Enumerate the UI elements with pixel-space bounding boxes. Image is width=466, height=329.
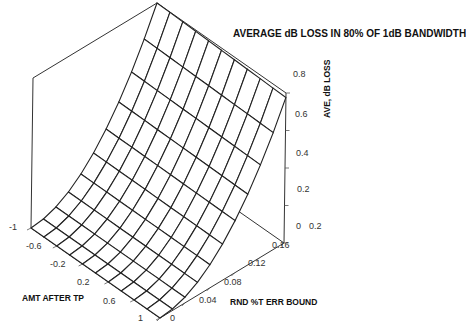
- z-axis-title: AVE, dB LOSS: [322, 60, 332, 118]
- chart-title: AVERAGE dB LOSS IN 80% OF 1dB BANDWIDTH: [233, 28, 466, 39]
- x-tick-label: -0.6: [26, 241, 42, 251]
- x-tick-label: 1: [138, 313, 143, 323]
- y-axis-title: RND %T ERR BOUND: [230, 297, 317, 307]
- surface-mesh: [31, 3, 286, 318]
- z-tick-label: 0.8: [293, 69, 306, 79]
- y-tick-label: 0.12: [248, 258, 266, 268]
- y-tick-label: 0.08: [224, 277, 242, 287]
- x-axis-title: AMT AFTER TP: [22, 293, 84, 303]
- z-tick-label: 0.6: [295, 109, 308, 119]
- x-tick-label: 0.2: [77, 277, 90, 287]
- z-tick-label: 0.4: [296, 148, 309, 158]
- x-tick-label: 0.6: [103, 296, 116, 306]
- y-tick-label: 0.2: [309, 221, 322, 231]
- z-tick-label: 0: [296, 221, 301, 231]
- y-tick-label: 0: [170, 313, 175, 323]
- x-tick-label: -0.2: [50, 259, 66, 269]
- x-tick-label: -1: [9, 222, 17, 232]
- y-tick-label: 0.04: [199, 295, 217, 305]
- y-tick-label: 0.16: [272, 240, 290, 250]
- z-tick-label: 0.2: [297, 184, 310, 194]
